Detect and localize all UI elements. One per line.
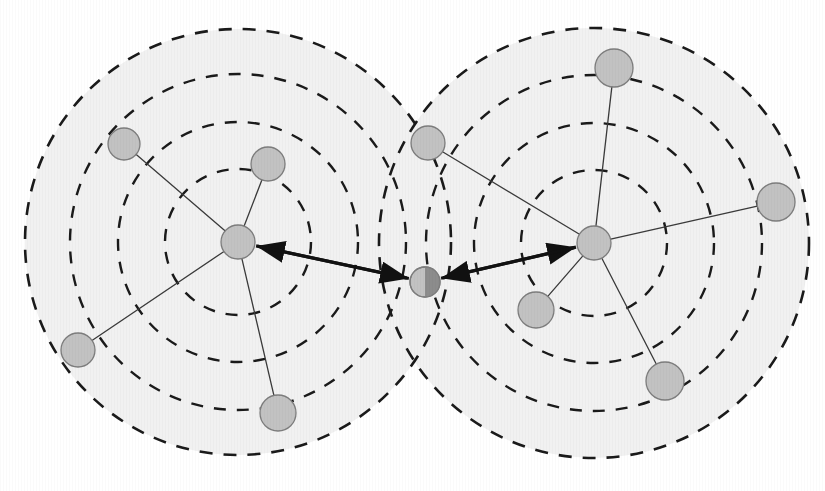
- network-diagram-canvas: Left hubRight hubShared gateway nodeLeft…: [0, 0, 825, 491]
- node-body-node-r2: [757, 183, 795, 221]
- node-node-r4[interactable]: Right node 4: [646, 362, 684, 400]
- node-hub-right[interactable]: Right hub: [577, 226, 611, 260]
- node-body-node-l2: [251, 147, 285, 181]
- node-body-node-l1: [108, 128, 140, 160]
- node-body-node-r3: [518, 292, 554, 328]
- node-body-hub-right: [577, 226, 611, 260]
- node-node-l2[interactable]: Left node 2: [251, 147, 285, 181]
- node-node-l1[interactable]: Left node 1: [108, 128, 140, 160]
- node-gateway[interactable]: Shared gateway node: [410, 267, 440, 297]
- coverage-areas-layer: [25, 28, 809, 458]
- node-body-node-r4: [646, 362, 684, 400]
- node-body-node-l4: [260, 395, 296, 431]
- node-hub-left[interactable]: Left hub: [221, 225, 255, 259]
- node-node-r2[interactable]: Right node 2: [757, 183, 795, 221]
- node-node-l3[interactable]: Left node 3: [61, 333, 95, 367]
- node-body-node-r0: [411, 126, 445, 160]
- node-node-l4[interactable]: Left node 4: [260, 395, 296, 431]
- diagram-root: Left hubRight hubShared gateway nodeLeft…: [0, 0, 825, 491]
- node-body-hub-left: [221, 225, 255, 259]
- node-body-node-r1: [595, 49, 633, 87]
- node-body-node-l3: [61, 333, 95, 367]
- node-node-r1[interactable]: Right node 1: [595, 49, 633, 87]
- node-node-r0[interactable]: Boundary node: [411, 126, 445, 160]
- node-node-r3[interactable]: Right node 3: [518, 292, 554, 328]
